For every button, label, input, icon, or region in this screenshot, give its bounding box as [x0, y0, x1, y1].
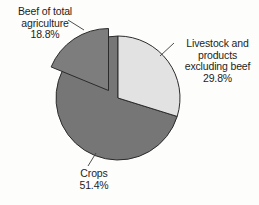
slice-label-livestock-line2: products [198, 49, 237, 61]
slice-label-livestock: Livestock and products excluding beef 29… [176, 38, 259, 84]
slice-label-livestock-line3: excluding beef [185, 60, 251, 72]
slice-value-beef: 18.8% [1, 29, 89, 41]
slice-label-beef-line2: agriculture [21, 17, 68, 29]
slice-label-beef: Beef of total agriculture 18.8% [1, 6, 89, 41]
slice-value-crops: 51.4% [58, 180, 130, 192]
leader-line-livestock [160, 43, 174, 56]
slice-label-beef-line1: Beef of total [18, 5, 72, 17]
slice-label-crops-line1: Crops [80, 167, 107, 179]
slice-label-crops: Crops 51.4% [58, 168, 130, 191]
slice-label-livestock-line1: Livestock and [186, 37, 248, 49]
slice-value-livestock: 29.8% [176, 73, 259, 85]
pie-chart-figure: Beef of total agriculture 18.8% Livestoc… [0, 0, 259, 205]
